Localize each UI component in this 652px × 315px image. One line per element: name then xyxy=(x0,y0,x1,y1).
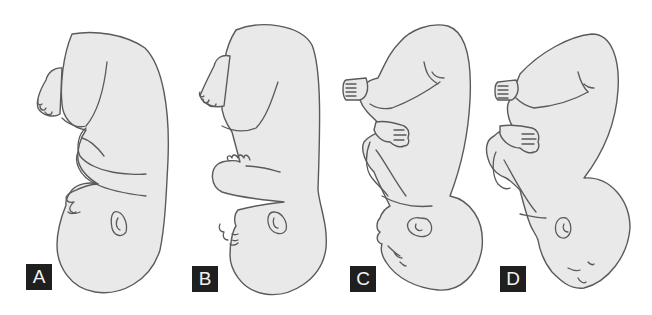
fetus-illustration-b xyxy=(160,0,330,315)
fetus-panel-b: B xyxy=(160,0,330,315)
panel-label-d: D xyxy=(500,266,526,292)
panel-label-c: C xyxy=(350,266,376,292)
fetus-illustration-c xyxy=(320,0,490,315)
panel-label-b: B xyxy=(192,266,218,292)
fetus-panel-a: A xyxy=(0,0,170,315)
fetus-panel-d: D xyxy=(480,0,652,315)
fetus-panel-c: C xyxy=(320,0,490,315)
panel-label-a: A xyxy=(26,264,52,290)
